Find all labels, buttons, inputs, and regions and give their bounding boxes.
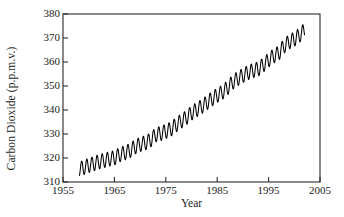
- co2-chart-figure: Carbon Dioxide (p.p.m.v.) 380 370 360 35…: [0, 0, 344, 217]
- x-tick-label-1955: 1955: [43, 184, 83, 196]
- y-tick-label-330: 330: [34, 128, 60, 139]
- x-axis-ticks: [63, 177, 320, 182]
- y-tick-label-370: 370: [34, 32, 60, 43]
- y-tick-label-340: 340: [34, 104, 60, 115]
- y-axis-ticks: [63, 14, 68, 182]
- y-tick-label-360: 360: [34, 56, 60, 67]
- x-tick-label-1985: 1985: [197, 184, 237, 196]
- x-tick-label-2005: 2005: [300, 184, 340, 196]
- co2-data-line: [79, 25, 304, 176]
- y-tick-label-380: 380: [34, 8, 60, 19]
- y-tick-label-350: 350: [34, 80, 60, 91]
- x-tick-label-1965: 1965: [94, 184, 134, 196]
- x-tick-label-1975: 1975: [146, 184, 186, 196]
- x-tick-label-1995: 1995: [249, 184, 289, 196]
- x-axis-title: Year: [63, 197, 320, 209]
- y-tick-label-320: 320: [34, 152, 60, 163]
